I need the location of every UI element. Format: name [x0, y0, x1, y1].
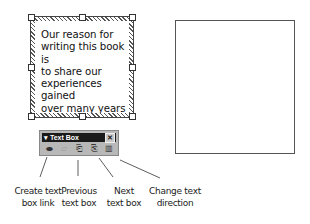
callout-line: Change text: [144, 185, 206, 197]
callout-line: Previous: [56, 185, 102, 197]
callout-line: text box: [56, 197, 102, 209]
callout-line: direction: [144, 197, 206, 209]
callout-change-text-direction: Change text direction: [144, 185, 206, 209]
callout-previous-text-box: Previous text box: [56, 185, 102, 209]
callout-next-text-box: Next text box: [104, 185, 144, 209]
callout-line: Next: [104, 185, 144, 197]
callout-line: text box: [104, 197, 144, 209]
